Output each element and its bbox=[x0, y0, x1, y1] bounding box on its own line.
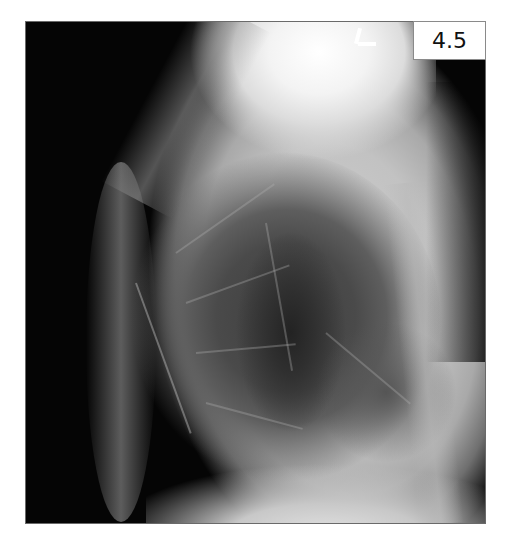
rib-streak bbox=[135, 283, 192, 434]
vessel-streak bbox=[325, 332, 411, 404]
xray-image bbox=[25, 21, 486, 524]
vessel-streak bbox=[175, 183, 274, 253]
vessel-streak bbox=[186, 264, 290, 304]
torso-silhouette bbox=[46, 21, 486, 524]
shoulder-streak bbox=[101, 21, 270, 218]
hilum-dark-region bbox=[236, 232, 346, 432]
figure-label: 4.5 bbox=[413, 21, 486, 60]
lower-lung-region bbox=[316, 322, 456, 462]
diaphragm bbox=[146, 452, 486, 524]
vessel-streak bbox=[265, 223, 293, 371]
neck-shoulder-region bbox=[176, 21, 436, 162]
posterior-background bbox=[426, 82, 486, 362]
surgical-clip-marker bbox=[356, 28, 378, 48]
figure-label-text: 4.5 bbox=[432, 28, 467, 53]
lung-field bbox=[131, 152, 441, 482]
vessel-streak bbox=[206, 402, 303, 430]
anterior-chest-wall bbox=[86, 162, 156, 522]
spine bbox=[383, 181, 464, 524]
vessel-streak bbox=[196, 343, 296, 354]
